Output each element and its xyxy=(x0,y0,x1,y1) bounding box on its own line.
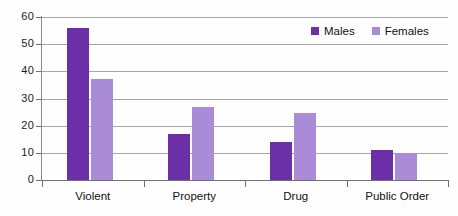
y-axis-label-10: 10 xyxy=(0,147,34,158)
legend-item-males[interactable]: Males xyxy=(311,25,355,37)
gridline-40 xyxy=(42,71,448,72)
y-axis-label-wrap-0: 0 xyxy=(0,174,34,185)
y-axis-label-wrap-30: 30 xyxy=(0,93,34,104)
legend-label-males: Males xyxy=(324,25,355,37)
legend-label-females: Females xyxy=(385,25,429,37)
y-axis-label-60: 60 xyxy=(0,11,34,22)
x-tick-2 xyxy=(245,180,246,187)
bar-males-violent[interactable] xyxy=(67,28,89,180)
bar-males-public-order[interactable] xyxy=(371,150,393,180)
bar-females-violent[interactable] xyxy=(91,79,113,180)
legend-item-females[interactable]: Females xyxy=(372,25,429,37)
females-swatch-icon xyxy=(372,27,380,35)
gridline-50 xyxy=(42,44,448,45)
plot-area xyxy=(42,17,448,180)
y-axis-label-wrap-60: 60 xyxy=(0,11,34,22)
y-axis-label-0: 0 xyxy=(0,174,34,185)
bar-females-public-order[interactable] xyxy=(395,153,417,180)
bar-females-drug[interactable] xyxy=(294,113,316,180)
x-axis-label-public-order: Public Order xyxy=(347,190,449,203)
x-axis-label-drug: Drug xyxy=(245,190,347,203)
x-tick-3 xyxy=(347,180,348,187)
bar-males-drug[interactable] xyxy=(270,142,292,180)
bar-chart: 6050403020100 ViolentPropertyDrugPublic … xyxy=(0,0,458,216)
bar-females-property[interactable] xyxy=(192,107,214,180)
x-tick-4 xyxy=(448,180,449,187)
legend: Males Females xyxy=(311,24,429,38)
y-axis-label-wrap-10: 10 xyxy=(0,147,34,158)
y-axis-label-30: 30 xyxy=(0,93,34,104)
y-axis-label-wrap-40: 40 xyxy=(0,65,34,76)
x-tick-1 xyxy=(144,180,145,187)
y-axis-label-50: 50 xyxy=(0,38,34,49)
y-axis-label-wrap-20: 20 xyxy=(0,120,34,131)
gridline-60 xyxy=(42,17,448,18)
males-swatch-icon xyxy=(311,27,319,35)
x-axis-label-violent: Violent xyxy=(42,190,144,203)
bar-males-property[interactable] xyxy=(168,134,190,180)
y-axis-label-20: 20 xyxy=(0,120,34,131)
x-axis-label-property: Property xyxy=(144,190,246,203)
y-axis-label-40: 40 xyxy=(0,65,34,76)
x-tick-0 xyxy=(42,180,43,187)
y-axis-label-wrap-50: 50 xyxy=(0,38,34,49)
